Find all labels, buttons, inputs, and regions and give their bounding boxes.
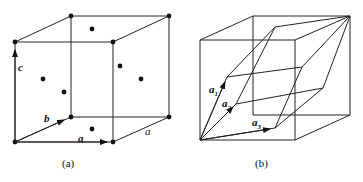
fcc-cube xyxy=(15,16,169,142)
caption-a: (a) xyxy=(62,157,75,170)
vector-a-label: a xyxy=(78,132,84,144)
rhombohedral-cell xyxy=(200,16,350,140)
caption-b: (b) xyxy=(255,157,268,170)
vector-a1-label: a1 xyxy=(209,83,218,98)
vector-a3-label: a3 xyxy=(252,116,262,131)
edge-a-label: a xyxy=(145,125,151,137)
diagram: c b a a (a) a1 a2 a3 (b) xyxy=(0,0,363,182)
vector-c-label: c xyxy=(18,61,23,73)
cube-outline xyxy=(200,16,350,140)
vector-b-label: b xyxy=(44,112,50,124)
vector-a2-label: a2 xyxy=(222,97,232,112)
